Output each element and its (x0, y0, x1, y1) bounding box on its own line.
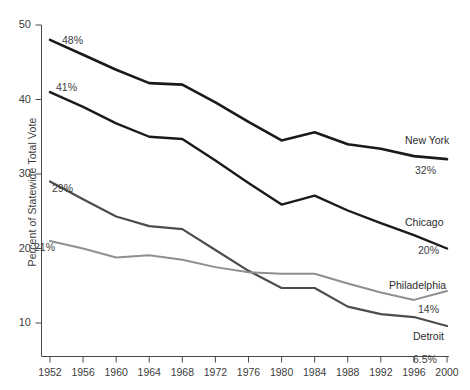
y-axis-tick-label: 10 (5, 316, 31, 328)
series-line-new-york (50, 40, 447, 159)
series-line-chicago (50, 92, 447, 248)
y-axis-tick-label: 40 (5, 93, 31, 105)
plot-area (0, 0, 470, 390)
series-label-chicago: Chicago (405, 216, 444, 228)
series-end-value-new-york: 32% (415, 164, 436, 176)
y-axis-tick-label: 20 (5, 242, 31, 254)
series-start-value-philadelphia: 21% (34, 241, 55, 253)
y-axis-tick-label: 30 (5, 167, 31, 179)
series-label-philadelphia: Philadelphia (389, 279, 446, 291)
series-line-detroit (50, 181, 447, 326)
axis-spine (42, 25, 450, 357)
series-label-new-york: New York (405, 134, 449, 146)
series-end-value-chicago: 20% (418, 244, 439, 256)
series-label-detroit: Detroit (413, 330, 444, 342)
y-axis-tick-label: 50 (5, 18, 31, 30)
series-start-value-detroit: 29% (52, 182, 73, 194)
x-axis-tick-label: 2000 (427, 366, 467, 378)
line-chart: Percent of Statewide Total Vote 10203040… (0, 0, 470, 390)
series-start-value-chicago: 41% (56, 81, 77, 93)
y-axis-title: Percent of Statewide Total Vote (26, 92, 38, 292)
series-end-value-detroit: 6.5% (413, 353, 437, 365)
series-start-value-new-york: 48% (62, 34, 83, 46)
series-end-value-philadelphia: 14% (418, 303, 439, 315)
